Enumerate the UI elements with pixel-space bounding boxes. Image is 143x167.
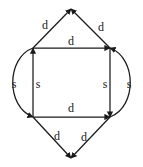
edge-line-top-right-to-top	[71, 9, 110, 48]
edge-label-top-right-to-top: d	[98, 21, 104, 33]
graph-diagram: d d d s s s s d d d	[0, 0, 143, 167]
edge-line-top-left-to-top	[33, 9, 71, 48]
edge-label-left-inner-vertical: s	[36, 78, 41, 90]
edge-label-bottom-left-to-bottom: d	[54, 130, 60, 142]
edge-line-bottom-left-to-bottom	[33, 117, 71, 158]
edge-label-left-outer-curve: s	[12, 78, 17, 90]
edge-label-right-inner-vertical: s	[103, 78, 108, 90]
edge-label-bottom-left-to-bottom-right: d	[68, 102, 74, 114]
diagram-canvas	[0, 0, 143, 167]
edge-line-bottom-right-to-bottom	[71, 117, 110, 158]
edge-label-top-left-to-top-right: d	[68, 35, 74, 47]
edge-label-right-outer-curve: s	[127, 78, 132, 90]
edge-label-bottom-right-to-bottom: d	[81, 131, 87, 143]
edge-label-top-left-to-top: d	[42, 19, 48, 31]
